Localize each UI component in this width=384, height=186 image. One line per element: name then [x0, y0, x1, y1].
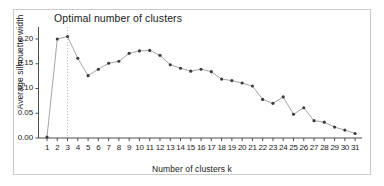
data-point — [158, 54, 161, 57]
data-point — [333, 126, 336, 129]
data-point — [302, 106, 305, 109]
data-point — [87, 74, 90, 77]
series-line — [47, 37, 355, 137]
data-point — [169, 63, 172, 66]
data-point — [241, 82, 244, 85]
marker-layer — [45, 35, 356, 139]
data-point — [251, 84, 254, 87]
data-point — [230, 79, 233, 82]
data-point — [117, 60, 120, 63]
data-point — [107, 62, 110, 65]
data-point — [312, 119, 315, 122]
data-point — [343, 129, 346, 132]
x-tick-label: 31 — [348, 143, 362, 152]
series-layer — [47, 37, 355, 137]
y-tick-label: 0.20 — [7, 34, 33, 43]
y-tick-label: 0.00 — [7, 133, 33, 142]
y-tick-label: 0.15 — [7, 58, 33, 67]
data-point — [354, 132, 357, 135]
data-point — [282, 95, 285, 98]
data-point — [138, 49, 141, 52]
data-point — [200, 68, 203, 71]
data-point — [189, 70, 192, 73]
data-point — [271, 102, 274, 105]
data-point — [179, 67, 182, 70]
y-tick-label: 0.05 — [7, 108, 33, 117]
data-point — [128, 52, 131, 55]
data-point — [220, 78, 223, 81]
axis-layer — [36, 27, 363, 141]
data-point — [148, 49, 151, 52]
data-point — [323, 121, 326, 124]
data-point — [76, 57, 79, 60]
plot-area — [0, 0, 384, 186]
data-point — [56, 37, 59, 40]
data-point — [292, 113, 295, 116]
data-point — [261, 98, 264, 101]
data-point — [66, 35, 69, 38]
data-point — [210, 70, 213, 73]
chart-figure: Optimal number of clusters Average silho… — [0, 0, 384, 186]
data-point — [45, 135, 48, 138]
data-point — [97, 68, 100, 71]
y-tick-label: 0.10 — [7, 83, 33, 92]
